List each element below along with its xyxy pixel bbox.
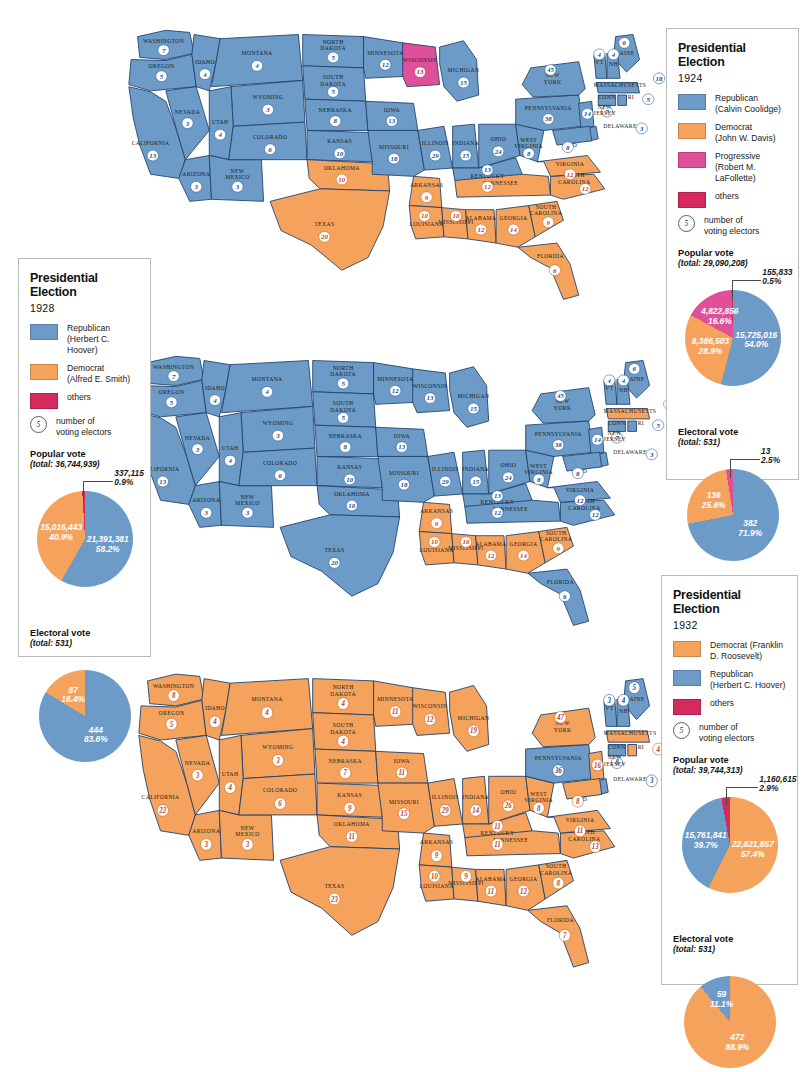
state-label-ma: MASSACHUSETTS — [594, 82, 647, 88]
state-label-wy: WYOMING — [262, 420, 293, 426]
state-pa — [516, 95, 583, 130]
elector-count-ia: 11 — [396, 767, 407, 779]
state-label-sc: SOUTH — [536, 204, 557, 210]
state-label-pa: PENNSYLVANIA — [525, 105, 572, 111]
state-il — [428, 452, 463, 496]
state-tx — [280, 515, 400, 596]
pie-slice-percent: 2.5% — [761, 455, 780, 465]
elector-count-value: 13 — [398, 444, 406, 451]
elector-count-value: 8 — [576, 798, 580, 806]
elector-count-al: 11 — [485, 885, 496, 897]
state-label-ma: MASSACHUSETTS — [604, 730, 657, 736]
elector-count-co: 6 — [264, 144, 275, 155]
elector-count-value: 7 — [172, 373, 176, 380]
elector-count-value: 18 — [401, 481, 409, 488]
pie-slice-label: 21,391,38158.2% — [87, 535, 129, 555]
state-ri — [628, 745, 637, 756]
elector-count-value: 5 — [341, 414, 345, 421]
elector-count-de: 3 — [646, 775, 657, 787]
elector-circle-icon: 5 — [673, 722, 690, 739]
electoral-vote-total: (total: 531) — [30, 638, 139, 648]
pie-slice-value: 4,822,856 — [701, 306, 738, 316]
state-label-wv: WEST — [520, 137, 537, 143]
election-map-1932: WASHINGTON8OREGON5CALIFORNIA22NEVADA3IDA… — [128, 665, 693, 983]
pie-slice-percent: 39.7% — [694, 840, 718, 850]
legend-swatch-democrat — [678, 123, 706, 139]
state-label-or: OREGON — [159, 389, 185, 395]
elector-count-ny: 47 — [555, 711, 566, 723]
pie-slice-percent: 28.9% — [699, 346, 723, 356]
elector-count-ms: 9 — [460, 870, 471, 882]
state-label-nd: NORTH — [333, 684, 354, 690]
elector-count-value: 22 — [158, 807, 166, 815]
legend-swatch-republican — [30, 324, 58, 340]
state-label-nh: NH — [619, 708, 628, 714]
elector-count-value: 18 — [656, 75, 664, 82]
pie-slice-value: 59 — [717, 989, 726, 999]
pie-slice-percent: 0.9% — [114, 477, 133, 487]
legend-item-others: others — [673, 698, 786, 715]
elector-count-wa: 7 — [158, 45, 169, 56]
elector-count-ut: 4 — [214, 129, 225, 140]
elector-count-value: 4 — [621, 697, 626, 705]
elector-count-value: 11 — [577, 827, 584, 835]
legend-item-elector-count: 5number ofvoting electors — [678, 215, 787, 237]
legend-label: Democrat (FranklinD. Roosevelt) — [710, 640, 783, 662]
elector-count-value: 4 — [212, 718, 217, 726]
elector-count-ks: 9 — [344, 802, 355, 814]
elector-count-value: 12 — [520, 887, 527, 895]
pie-chart: 38271.9%13625.6%132.5% — [678, 469, 787, 591]
panel-year: 1928 — [30, 302, 139, 314]
elector-count-mn: 12 — [380, 59, 391, 70]
elector-count-value: 4 — [597, 51, 602, 58]
pie-slice-value: 13 — [761, 446, 770, 456]
elector-count-nv: 3 — [192, 444, 203, 455]
state-label-mn: MINNESOTA — [377, 376, 413, 382]
elector-count-value: 4 — [212, 397, 217, 404]
pie-slice-label: 4,822,85616.6% — [701, 307, 738, 327]
callout-leader-line-horizontal — [83, 481, 113, 482]
state-label-nj: NEW — [608, 754, 622, 760]
elector-count-value: 8 — [172, 692, 176, 700]
state-label-ut: UTAH — [222, 771, 239, 777]
elector-count-me: 6 — [619, 37, 630, 48]
elector-count-me: 5 — [629, 682, 640, 694]
state-wy — [241, 406, 315, 452]
elector-count-value: 15 — [401, 810, 408, 818]
elector-count-value: 8 — [334, 118, 338, 125]
elector-count-ok: 10 — [336, 174, 347, 185]
state-label-mo: MISSOURI — [379, 144, 409, 150]
elector-count-value: 14 — [510, 226, 518, 233]
elector-count-value: 13 — [427, 395, 435, 402]
callout-leader-line-horizontal — [730, 459, 760, 460]
elector-count-value: 12 — [592, 511, 600, 518]
elector-count-mi: 19 — [468, 725, 479, 737]
elector-count-sd: 5 — [337, 412, 348, 423]
pie-slice-label: 8716.4% — [61, 686, 85, 706]
state-label-wa: WASHINGTON — [153, 364, 194, 370]
pie-slice-value: 136 — [707, 490, 721, 500]
elector-count-ky: 13 — [492, 491, 503, 502]
state-label-id: IDAHO — [195, 59, 215, 65]
elector-count-az: 3 — [201, 839, 212, 851]
elector-count-value: 4 — [340, 700, 345, 708]
elector-count-nd: 5 — [337, 378, 348, 389]
pie-slice-value: 382 — [743, 518, 757, 528]
elector-count-value: 12 — [487, 552, 495, 559]
elector-count-sd: 5 — [327, 86, 338, 97]
elector-count-value: 11 — [349, 833, 356, 841]
elector-count-ri: 5 — [653, 420, 664, 431]
elector-count-value: 3 — [195, 772, 200, 780]
elector-count-wv: 8 — [533, 474, 544, 485]
elector-count-tn: 12 — [482, 181, 493, 192]
pie-slice-label: 5911.1% — [710, 990, 733, 1010]
elector-count-sd: 4 — [337, 735, 348, 747]
state-mn — [374, 363, 417, 405]
elector-count-tx: 23 — [329, 893, 340, 905]
elector-count-value: 9 — [348, 805, 352, 813]
elector-count-nv: 3 — [192, 769, 203, 781]
elector-count-wi: 13 — [424, 393, 435, 404]
elector-count-value: 11 — [392, 708, 399, 716]
state-label-sc: CAROLINA — [540, 870, 573, 876]
elector-count-az: 3 — [191, 181, 202, 192]
